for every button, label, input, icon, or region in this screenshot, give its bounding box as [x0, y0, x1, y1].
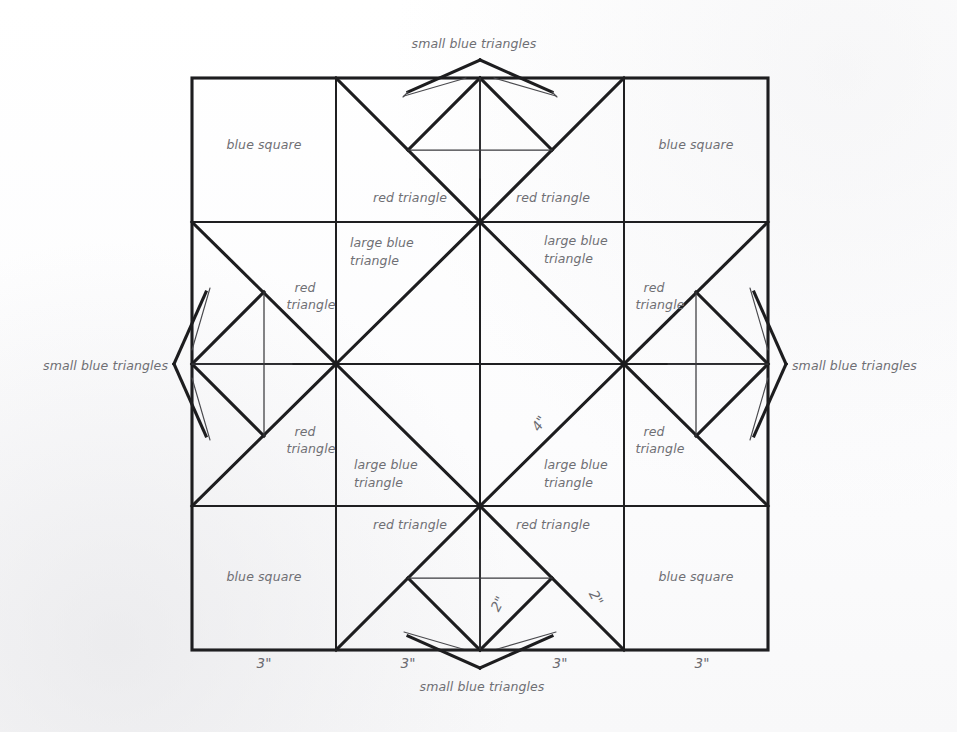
blue-square-bottom-right-label: blue square: [659, 569, 734, 584]
quilt-block-diagram: blue square blue square blue square blue…: [0, 0, 957, 732]
dimension-3in-segment-2-label: 3": [401, 655, 416, 671]
large-blue-triangle-top-left-label-line2: triangle: [350, 253, 399, 268]
large-blue-triangle-bottom-left-label-line1: large blue: [354, 457, 418, 472]
blue-square-bottom-left-label: blue square: [227, 569, 302, 584]
dimension-2in-right-label: 2": [586, 587, 607, 608]
large-blue-triangle-bottom-left-label-line2: triangle: [354, 475, 403, 490]
diagram-page: blue square blue square blue square blue…: [0, 0, 957, 732]
red-triangle-left-lower-label-line1: red: [294, 424, 315, 439]
red-triangle-right-lower-label-line1: red: [643, 424, 664, 439]
dimension-3in-segment-4-label: 3": [695, 655, 710, 671]
dimension-3in-segment-3-label: 3": [553, 655, 568, 671]
small-blue-triangles-top-label: small blue triangles: [412, 36, 537, 51]
red-triangle-top-right-label: red triangle: [516, 190, 590, 205]
large-blue-triangle-top-left-label-line1: large blue: [350, 235, 414, 250]
red-triangle-right-upper-label-line1: red: [643, 280, 664, 295]
small-blue-triangles-left-label: small blue triangles: [43, 358, 168, 373]
red-triangle-bottom-right-label: red triangle: [516, 517, 590, 532]
red-triangle-left-lower-label-line2: triangle: [287, 441, 336, 456]
dimension-3in-segment-1-label: 3": [257, 655, 272, 671]
small-blue-triangles-right-label: small blue triangles: [792, 358, 917, 373]
large-blue-triangle-top-right-label-line2: triangle: [544, 251, 593, 266]
red-triangle-right-upper-label-line2: triangle: [636, 297, 685, 312]
small-blue-triangles-bottom-label: small blue triangles: [420, 679, 545, 694]
large-blue-triangle-bottom-right-label-line1: large blue: [544, 457, 608, 472]
red-triangle-right-lower-label-line2: triangle: [636, 441, 685, 456]
red-triangle-top-left-label: red triangle: [373, 190, 447, 205]
large-blue-triangle-bottom-right-label-line2: triangle: [544, 475, 593, 490]
red-triangle-bottom-left-label: red triangle: [373, 517, 447, 532]
blue-square-top-right-label: blue square: [659, 137, 734, 152]
red-triangle-left-upper-label-line2: triangle: [287, 297, 336, 312]
dimension-4in-center-diagonal-label: 4": [528, 413, 549, 434]
red-triangle-left-upper-label-line1: red: [294, 280, 315, 295]
dimension-2in-left-label: 2": [487, 593, 508, 614]
large-blue-triangle-top-right-label-line1: large blue: [544, 233, 608, 248]
blue-square-top-left-label: blue square: [227, 137, 302, 152]
bottom-dimension-labels: 3" 3" 3" 3": [257, 655, 710, 671]
